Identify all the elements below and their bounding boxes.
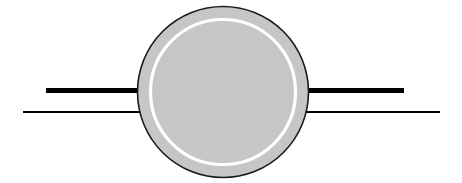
disc-shape <box>138 7 309 178</box>
figure-canvas <box>0 0 462 183</box>
schematic-diagram <box>0 0 462 183</box>
